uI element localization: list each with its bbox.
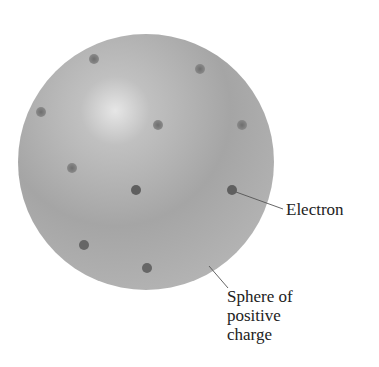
electron — [237, 120, 247, 130]
electron-label: Electron — [286, 200, 344, 219]
electron — [153, 120, 163, 130]
sphere-label-line-3: charge — [227, 325, 293, 344]
electron — [36, 107, 46, 117]
sphere-label-line-2: positive — [227, 306, 293, 325]
diagram-canvas — [0, 0, 379, 367]
electron — [131, 185, 141, 195]
sphere-label: Sphere of positive charge — [227, 287, 293, 344]
electron — [195, 64, 205, 74]
sphere-label-line-1: Sphere of — [227, 287, 293, 306]
electron — [227, 185, 237, 195]
positive-sphere — [18, 34, 274, 290]
electron — [67, 163, 77, 173]
electron — [142, 263, 152, 273]
electron — [79, 240, 89, 250]
sphere-leader-line — [209, 266, 228, 288]
electron — [89, 54, 99, 64]
